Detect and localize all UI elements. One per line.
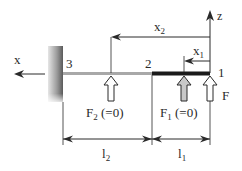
node-2-label: 2: [145, 56, 152, 71]
beam-segment-2: [63, 72, 152, 75]
force-f-label: F: [222, 88, 229, 103]
z-axis-arrow: [206, 10, 214, 73]
force-f1-arrow: [177, 76, 191, 101]
x2-label: x2: [154, 19, 165, 36]
x-axis-arrow: [14, 70, 45, 78]
l1-dimension: [152, 136, 210, 143]
force-f-arrow: [203, 76, 217, 101]
cantilever-beam-diagram: x 3 2 1 z x2 x1 F2 (=0) F1 (=0) F: [0, 0, 242, 171]
z-axis-label: z: [217, 9, 222, 23]
node-1-label: 1: [218, 65, 225, 80]
beam: [63, 72, 210, 76]
node-3-label: 3: [66, 56, 73, 71]
x1-dimension: [184, 56, 210, 72]
l2-dimension: [63, 136, 152, 143]
x-axis-label: x: [14, 52, 21, 67]
beam-segment-1: [152, 72, 210, 76]
x1-label: x1: [193, 43, 204, 60]
l1-label: l1: [178, 146, 186, 163]
force-f2-arrow: [104, 76, 118, 101]
force-f2-label: F2 (=0): [86, 105, 123, 122]
wall-support: [48, 46, 63, 102]
force-f1-label: F1 (=0): [160, 105, 197, 122]
l2-label: l2: [102, 146, 110, 163]
